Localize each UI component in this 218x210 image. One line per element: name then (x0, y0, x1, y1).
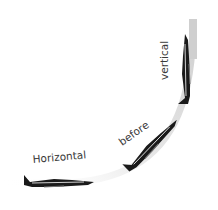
label-before: before (116, 118, 151, 147)
label-vertical: vertical (158, 41, 170, 80)
vertical-track-segment (189, 19, 197, 59)
diagram-canvas: Horizontal before vertical (0, 0, 218, 210)
label-horizontal: Horizontal (32, 148, 86, 165)
